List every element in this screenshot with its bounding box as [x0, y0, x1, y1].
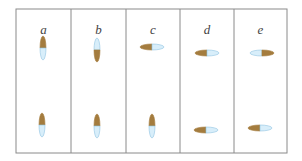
capsule-blue-half	[39, 125, 45, 137]
column-label-c: c	[150, 22, 156, 37]
capsule-brown-half	[140, 44, 152, 50]
capsule-a-top	[40, 36, 46, 60]
capsule-brown-half	[262, 50, 274, 56]
capsule-blue-half	[250, 50, 262, 56]
capsule-brown-half	[40, 36, 46, 48]
capsule-e-top	[250, 50, 274, 56]
capsule-blue-half	[94, 126, 100, 138]
capsule-blue-half	[206, 127, 218, 133]
capsule-brown-half	[94, 114, 100, 126]
capsule-b-top	[94, 38, 100, 62]
capsule-blue-half	[260, 125, 272, 131]
capsule-a-bottom	[39, 113, 45, 137]
capsule-blue-half	[94, 38, 100, 50]
capsule-blue-half	[207, 50, 219, 56]
capsule-e-bottom	[248, 125, 272, 131]
column-label-e: e	[258, 22, 264, 37]
capsule-orientation-diagram: a b c d e	[0, 0, 302, 161]
capsule-c-bottom	[149, 114, 155, 138]
capsule-blue-half	[149, 126, 155, 138]
capsule-blue-half	[152, 44, 164, 50]
capsule-brown-half	[39, 113, 45, 125]
column-labels: a b c d e	[40, 22, 263, 37]
capsule-brown-half	[195, 50, 207, 56]
capsule-d-bottom	[194, 127, 218, 133]
capsule-c-top	[140, 44, 164, 50]
capsule-brown-half	[194, 127, 206, 133]
capsule-d-top	[195, 50, 219, 56]
capsule-brown-half	[94, 50, 100, 62]
capsule-blue-half	[40, 48, 46, 60]
capsules	[39, 36, 274, 138]
capsule-b-bottom	[94, 114, 100, 138]
column-label-b: b	[95, 22, 102, 37]
column-label-a: a	[40, 22, 47, 37]
capsule-brown-half	[149, 114, 155, 126]
column-label-d: d	[204, 22, 211, 37]
capsule-brown-half	[248, 125, 260, 131]
